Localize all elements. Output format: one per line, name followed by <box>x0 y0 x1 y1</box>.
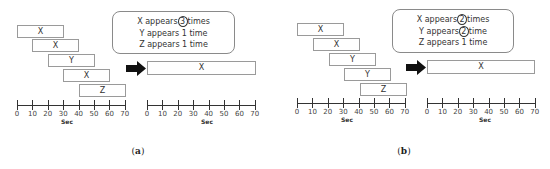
callout-text: time <box>469 27 487 36</box>
tick-label: 0 <box>295 108 299 116</box>
axis-tick <box>504 98 505 108</box>
tick-label: 40 <box>204 110 213 118</box>
segment-x-30-60: X <box>63 69 110 82</box>
tick-label: 50 <box>90 110 99 118</box>
panel-a: X X Y X Z 0 10 20 30 40 50 60 70 Sec X a… <box>0 0 275 169</box>
axis-tick <box>389 98 390 108</box>
segment-label: X <box>478 62 483 71</box>
segment-label: X <box>334 40 339 49</box>
segment-x-10-40: X <box>313 38 360 51</box>
axis-tick <box>489 98 490 108</box>
tick-label: 60 <box>105 110 114 118</box>
segment-z-40-70: Z <box>360 83 407 96</box>
axis-tick <box>255 100 256 110</box>
tick-label: 0 <box>145 110 149 118</box>
tick-label: 60 <box>385 108 394 116</box>
axis-tick <box>63 100 64 110</box>
circled-count: 3 <box>178 16 188 27</box>
axis-tick <box>193 100 194 110</box>
tick-label: 60 <box>515 108 524 116</box>
tick-label: 30 <box>469 108 478 116</box>
tick-label: 70 <box>250 110 259 118</box>
tick-label: 50 <box>220 110 229 118</box>
tick-label: 20 <box>43 110 52 118</box>
panel-b: X X Y Y Z 0 10 20 30 40 50 60 70 Sec X a… <box>275 0 550 169</box>
axis-tick <box>239 100 240 110</box>
axis-label: Sec <box>61 118 73 125</box>
callout-text: Y appears <box>419 27 459 36</box>
tick-label: 30 <box>189 110 198 118</box>
result-segment-x: X <box>147 61 256 75</box>
tick-label: 60 <box>235 110 244 118</box>
caption-paren: ) <box>141 146 145 156</box>
tick-label: 0 <box>425 108 429 116</box>
tick-label: 40 <box>484 108 493 116</box>
callout-line-z: Z appears 1 time <box>113 39 234 51</box>
callout-line-x: X appears2times <box>393 14 513 26</box>
axis-tick <box>442 98 443 108</box>
axis-tick <box>125 100 126 110</box>
segment-y-30-60: Y <box>344 68 391 81</box>
tick-label: 10 <box>438 108 447 116</box>
axis-tick <box>147 100 148 110</box>
tick-label: 20 <box>173 110 182 118</box>
segment-label: X <box>84 71 89 80</box>
axis-tick <box>374 98 375 108</box>
axis-tick <box>458 98 459 108</box>
axis-tick <box>343 98 344 108</box>
axis-label: Sec <box>479 116 491 123</box>
callout-line-x: X appears3times <box>113 16 234 28</box>
axis-tick <box>535 98 536 108</box>
tick-label: 40 <box>354 108 363 116</box>
circled-count: 2 <box>457 14 467 25</box>
tick-label: 10 <box>158 110 167 118</box>
callout-text: times <box>188 17 210 26</box>
tick-label: 70 <box>400 108 409 116</box>
tick-label: 30 <box>59 110 68 118</box>
axis-tick <box>48 100 49 110</box>
callout-line-y: Y appears2time <box>393 26 513 38</box>
result-segment-x: X <box>427 60 535 74</box>
right-arrow-icon <box>126 61 146 76</box>
tick-label: 10 <box>28 110 37 118</box>
tick-label: 70 <box>120 110 129 118</box>
axis-tick <box>109 100 110 110</box>
axis-tick <box>209 100 210 110</box>
callout-text: X appears <box>137 17 177 26</box>
count-callout: X appears3times Y appears 1 time Z appea… <box>112 11 235 54</box>
axis-tick <box>297 98 298 108</box>
callout-text: X appears <box>417 15 457 24</box>
axis-tick <box>519 98 520 108</box>
tick-label: 50 <box>370 108 379 116</box>
tick-label: 0 <box>15 110 19 118</box>
tick-label: 20 <box>323 108 332 116</box>
tick-label: 40 <box>74 110 83 118</box>
tick-label: 30 <box>339 108 348 116</box>
axis-label: Sec <box>201 118 213 125</box>
segment-z-40-70: Z <box>79 84 126 97</box>
tick-label: 70 <box>530 108 539 116</box>
segment-label: X <box>53 41 58 50</box>
caption-a: (a) <box>132 146 145 156</box>
segment-x-0-30: X <box>297 23 344 36</box>
segment-label: X <box>199 63 204 72</box>
axis-tick <box>178 100 179 110</box>
axis-tick <box>32 100 33 110</box>
right-arrow-icon <box>406 60 426 75</box>
segment-label: Y <box>69 56 74 65</box>
axis-tick <box>473 98 474 108</box>
segment-y-20-50: Y <box>48 54 95 67</box>
axis-tick <box>427 98 428 108</box>
caption-b: (b) <box>397 146 410 156</box>
segment-label: X <box>318 25 323 34</box>
callout-text: times <box>467 15 489 24</box>
axis-tick <box>162 100 163 110</box>
tick-label: 10 <box>308 108 317 116</box>
segment-label: Z <box>100 86 105 95</box>
segment-label: Z <box>381 85 386 94</box>
axis-tick <box>94 100 95 110</box>
caption-paren: ) <box>407 146 411 156</box>
axis-tick <box>79 100 80 110</box>
tick-label: 20 <box>453 108 462 116</box>
count-callout: X appears2times Y appears2time Z appears… <box>392 9 514 53</box>
